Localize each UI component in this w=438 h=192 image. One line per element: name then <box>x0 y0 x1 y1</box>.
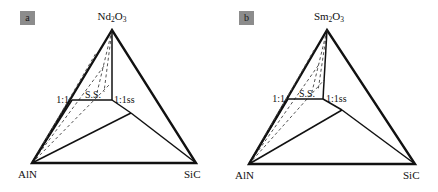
panel-label-b: b <box>239 11 254 25</box>
panel-label-a: a <box>20 11 35 25</box>
right-vertex-label-a: SiC <box>184 169 201 180</box>
ratio-left-label-a: 1:1 <box>56 95 69 105</box>
apex-label-b: Sm2O3 <box>314 11 344 22</box>
right-vertex-label-b: SiC <box>403 170 420 181</box>
panel-b: b Sm2O3 AlN SiC 1:1 1:1ss S.S. <box>219 0 438 192</box>
solid-solution-label-a: S.S. <box>85 90 101 100</box>
ratio-right-label-a: 1:1ss <box>114 95 135 105</box>
ratio-right-label-b: 1:1ss <box>326 94 347 104</box>
left-vertex-label-b: AlN <box>235 170 254 181</box>
left-vertex-label-a: AlN <box>18 169 37 180</box>
solid-solution-label-b: S.S. <box>299 89 315 99</box>
apex-label-a: Nd2O3 <box>98 11 127 22</box>
phase-diagram-figure: a Nd2O3 AlN SiC 1:1 1:1ss S.S. <box>0 0 438 192</box>
panel-a: a Nd2O3 AlN SiC 1:1 1:1ss S.S. <box>0 0 219 192</box>
panel-a-drawing <box>0 0 219 192</box>
ratio-left-label-b: 1:1 <box>272 94 285 104</box>
